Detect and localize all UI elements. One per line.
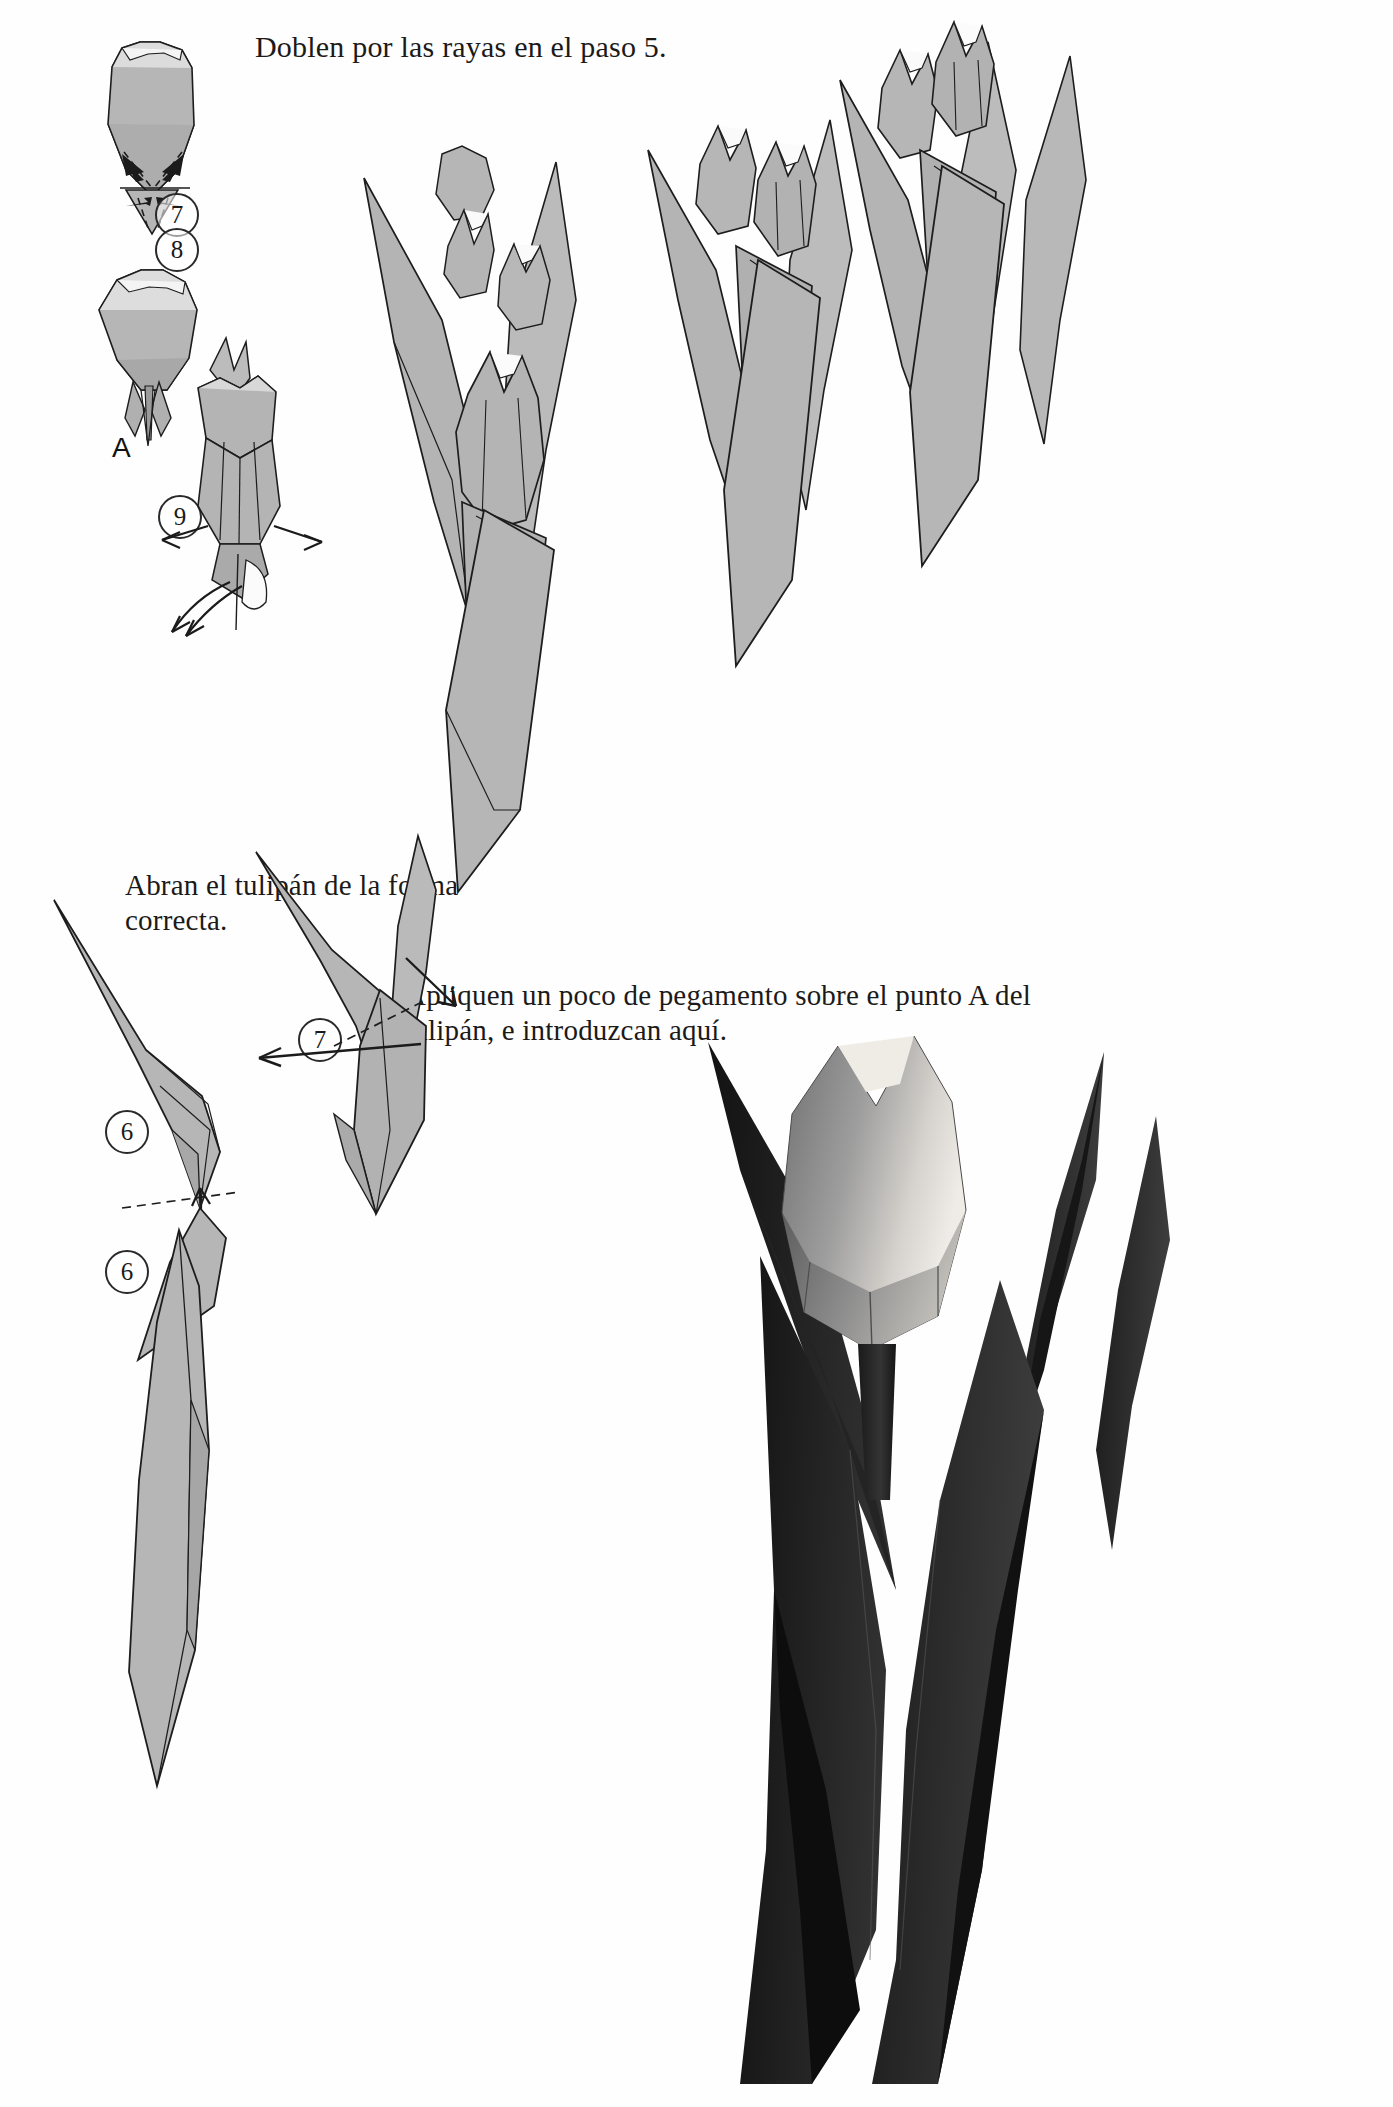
tulip-illustration-3	[830, 20, 1170, 620]
point-label-a: A	[112, 432, 131, 464]
bud-open-diagram	[150, 330, 350, 660]
page-title: Doblen por las rayas en el paso 5.	[255, 30, 667, 64]
finished-tulip-photo	[700, 1030, 1390, 2095]
glue-pointer-arrow	[245, 1030, 425, 1080]
origami-instruction-page: Doblen por las rayas en el paso 5.	[0, 0, 1393, 2107]
photo-bud	[782, 1036, 966, 1350]
photo-far-right-leaf	[1096, 1116, 1170, 1550]
bud-crease-diagram	[60, 20, 240, 240]
leaf-fold-diagram	[250, 830, 510, 1350]
valley-crease	[122, 1192, 240, 1208]
photo-lower-right-leaf	[872, 1280, 1044, 2084]
